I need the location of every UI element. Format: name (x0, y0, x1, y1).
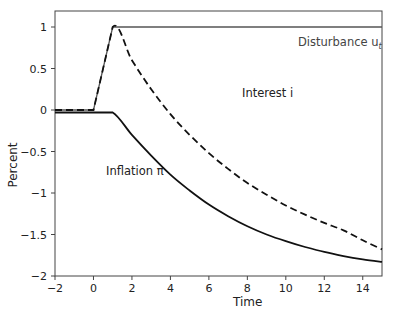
y-tick-label: 0.5 (30, 63, 48, 76)
y-tick-label: −1 (31, 187, 47, 200)
y-tick-label: −2 (31, 270, 47, 283)
annotation-interest: Interest i (242, 86, 293, 100)
y-tick-label: 1 (40, 21, 47, 34)
annotation-inflation: Inflation π (106, 164, 164, 178)
x-tick-label: 8 (244, 282, 251, 295)
chart: 10.50−0.5−1−1.5−2 −202468101214 Time Per… (0, 0, 395, 321)
x-tick-label: 0 (90, 282, 97, 295)
y-axis: 10.50−0.5−1−1.5−2 (20, 21, 55, 283)
y-tick-label: 0 (40, 104, 47, 117)
y-tick-label: −0.5 (20, 146, 47, 159)
y-tick-label: −1.5 (20, 229, 47, 242)
x-axis-title: Time (232, 295, 262, 309)
x-tick-label: −2 (47, 282, 63, 295)
x-tick-label: 10 (279, 282, 293, 295)
annotation-disturbance: Disturbance ut (298, 35, 383, 51)
plot-frame (55, 11, 382, 276)
series-lines (55, 26, 382, 262)
x-tick-label: 2 (128, 282, 135, 295)
x-tick-label: 6 (205, 282, 212, 295)
x-tick-label: 4 (167, 282, 174, 295)
y-axis-title: Percent (6, 142, 20, 187)
series-line-2 (55, 112, 382, 261)
x-tick-label: 14 (356, 282, 370, 295)
x-axis: −202468101214 (47, 276, 370, 295)
x-tick-label: 12 (317, 282, 331, 295)
series-line-1 (55, 26, 382, 250)
